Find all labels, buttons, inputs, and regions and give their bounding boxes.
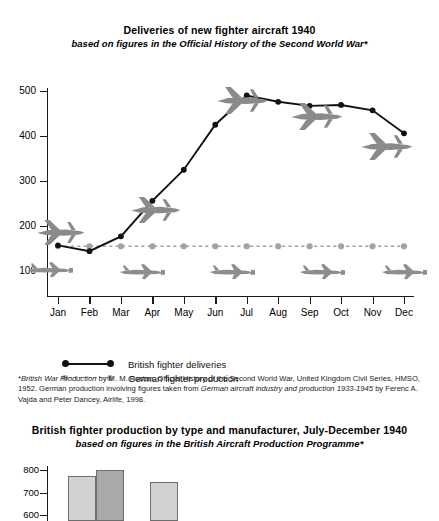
bar [96, 470, 124, 521]
line-chart-section: Deliveries of new fighter aircraft 1940 … [0, 24, 439, 324]
chart2-title-block: British fighter production by type and m… [0, 424, 439, 450]
data-point [181, 243, 187, 249]
y-tick-chart2 [40, 470, 47, 471]
legend-swatch [60, 357, 118, 371]
data-point [338, 102, 344, 108]
bar-chart-section: British fighter production by type and m… [0, 424, 439, 521]
data-point [275, 99, 281, 105]
data-point [307, 103, 313, 109]
bar [68, 476, 96, 521]
data-point [181, 167, 187, 173]
data-point [370, 107, 376, 113]
chart2-title: British fighter production by type and m… [0, 424, 439, 437]
data-point [118, 233, 124, 239]
data-point [401, 243, 407, 249]
y-tick-label-chart2: 800 [8, 465, 39, 475]
footnote-source-title-2: German aircraft industry and production … [201, 384, 373, 393]
chart2-subtitle: based on figures in the British Aircraft… [0, 437, 439, 450]
data-point [307, 243, 313, 249]
footnote: *British War Production by M. M. Postan,… [18, 374, 426, 405]
data-point [149, 198, 155, 204]
y-tick-chart2 [40, 515, 47, 516]
legend-item-british[interactable]: British fighter deliveries [60, 357, 238, 371]
data-point [87, 248, 93, 254]
data-point [369, 243, 375, 249]
y-tick-label-chart2: 600 [8, 510, 39, 520]
data-point [338, 243, 344, 249]
y-axis-line-chart2 [47, 466, 48, 521]
data-point [149, 243, 155, 249]
bar [150, 482, 178, 521]
series-plot-area [0, 24, 439, 324]
data-point [244, 93, 250, 99]
series-line-british [58, 96, 404, 252]
data-point [212, 122, 218, 128]
data-point [244, 243, 250, 249]
data-point [55, 242, 61, 248]
y-tick-chart2 [40, 493, 47, 494]
y-tick-label-chart2: 700 [8, 488, 39, 498]
data-point [118, 243, 124, 249]
data-point [401, 130, 407, 136]
legend-label: British fighter deliveries [128, 359, 226, 370]
data-point [212, 243, 218, 249]
footnote-source-title: British War Production [21, 374, 96, 383]
figure-page: Deliveries of new fighter aircraft 1940 … [0, 0, 439, 521]
data-point [275, 243, 281, 249]
